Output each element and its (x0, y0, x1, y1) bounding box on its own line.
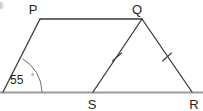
vertex-label-P: P (29, 2, 38, 17)
vertex-label-Q: Q (132, 2, 142, 17)
angle-degree-symbol: ° (31, 72, 34, 81)
edge-QS (93, 19, 142, 92)
tick-mark-QS (113, 53, 122, 61)
angle-value-label: 55 (10, 73, 24, 87)
edge-QR (142, 19, 192, 92)
geometry-figure: P Q S R 55 ° (0, 0, 203, 111)
vertex-label-R: R (189, 97, 198, 111)
cropped-edge-mark (1, 2, 3, 9)
geometry-canvas: P Q S R 55 ° (0, 0, 203, 111)
vertex-label-S: S (88, 97, 97, 111)
